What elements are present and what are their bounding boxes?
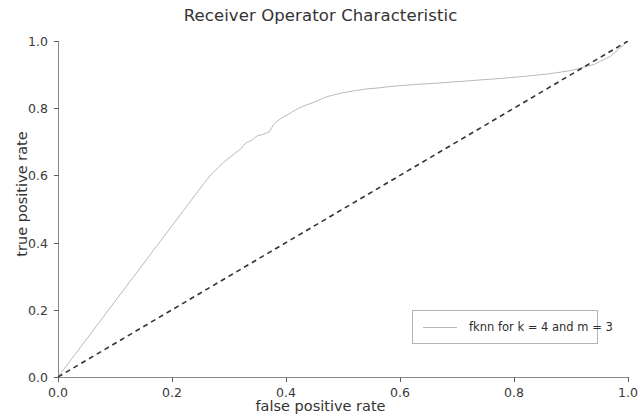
x-tick-mark	[400, 377, 401, 382]
legend-box: fknn for k = 4 and m = 3	[412, 310, 598, 344]
x-tick-mark	[58, 377, 59, 382]
y-tick-label: 1.0	[16, 34, 48, 49]
roc-chart-figure: Receiver Operator Characteristic 0.00.20…	[0, 0, 641, 420]
x-tick-mark	[172, 377, 173, 382]
x-tick-mark	[286, 377, 287, 382]
y-axis-label: true positive rate	[14, 74, 30, 314]
y-tick-label: 0.0	[16, 370, 48, 385]
chart-title: Receiver Operator Characteristic	[0, 6, 641, 25]
legend-line-swatch	[423, 327, 457, 328]
x-tick-mark	[514, 377, 515, 382]
x-tick-mark	[628, 377, 629, 382]
legend-entry: fknn for k = 4 and m = 3	[413, 311, 597, 343]
x-axis-line	[58, 377, 629, 378]
legend-entry-label: fknn for k = 4 and m = 3	[469, 320, 613, 334]
x-axis-label: false positive rate	[0, 398, 641, 414]
